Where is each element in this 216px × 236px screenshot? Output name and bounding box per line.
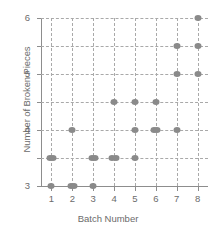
gridline-vertical <box>72 18 73 186</box>
data-point <box>48 183 55 189</box>
y-tick-label: 4 <box>25 125 30 135</box>
x-tick-label: 7 <box>174 194 179 204</box>
x-axis-title: Batch Number <box>0 213 216 224</box>
data-point <box>131 155 138 161</box>
y-tick-mark: 5 <box>37 46 41 47</box>
y-tick-mark: 1 <box>37 158 41 159</box>
x-tick-mark <box>177 187 178 191</box>
data-point <box>173 71 180 77</box>
data-point <box>70 183 77 189</box>
data-point <box>152 99 159 105</box>
x-tick-label: 6 <box>153 194 158 204</box>
data-point <box>194 43 201 49</box>
y-tick-mark: 4 <box>37 74 41 75</box>
x-tick-label: 8 <box>195 194 200 204</box>
x-tick-mark <box>135 187 136 191</box>
data-point <box>154 127 161 133</box>
y-tick-mark: 0 <box>37 186 41 187</box>
y-tick-mark: 6 <box>37 18 41 19</box>
gridline-horizontal <box>41 46 208 47</box>
gridline-horizontal <box>41 18 208 19</box>
x-axis-line <box>41 186 208 187</box>
x-tick-mark <box>114 187 115 191</box>
data-point <box>173 43 180 49</box>
data-point <box>194 15 201 21</box>
data-point <box>131 99 138 105</box>
data-point <box>112 155 119 161</box>
y-tick-label: 6 <box>25 13 30 23</box>
data-point <box>69 127 76 133</box>
dot-plot-chart: Number of Broken Pieces 012345612345678 … <box>0 0 216 236</box>
y-tick-label: 5 <box>25 69 30 79</box>
x-tick-label: 3 <box>91 194 96 204</box>
x-tick-label: 1 <box>49 194 54 204</box>
y-tick-label: 3 <box>25 181 30 191</box>
data-point <box>194 71 201 77</box>
data-point <box>111 99 118 105</box>
data-point <box>173 127 180 133</box>
x-tick-label: 5 <box>132 194 137 204</box>
gridline-horizontal <box>41 74 208 75</box>
gridline-horizontal <box>41 102 208 103</box>
gridline-horizontal <box>41 158 208 159</box>
data-point <box>90 183 97 189</box>
y-axis-title: Number of Broken Pieces <box>21 25 32 175</box>
x-tick-mark <box>198 187 199 191</box>
data-point <box>131 127 138 133</box>
x-tick-label: 2 <box>70 194 75 204</box>
plot-area: 012345612345678 <box>41 18 207 186</box>
x-tick-mark <box>156 187 157 191</box>
data-point <box>91 155 98 161</box>
y-tick-mark: 2 <box>37 130 41 131</box>
y-tick-mark: 3 <box>37 102 41 103</box>
gridline-horizontal <box>41 130 208 131</box>
data-point <box>50 155 57 161</box>
x-tick-label: 4 <box>111 194 116 204</box>
